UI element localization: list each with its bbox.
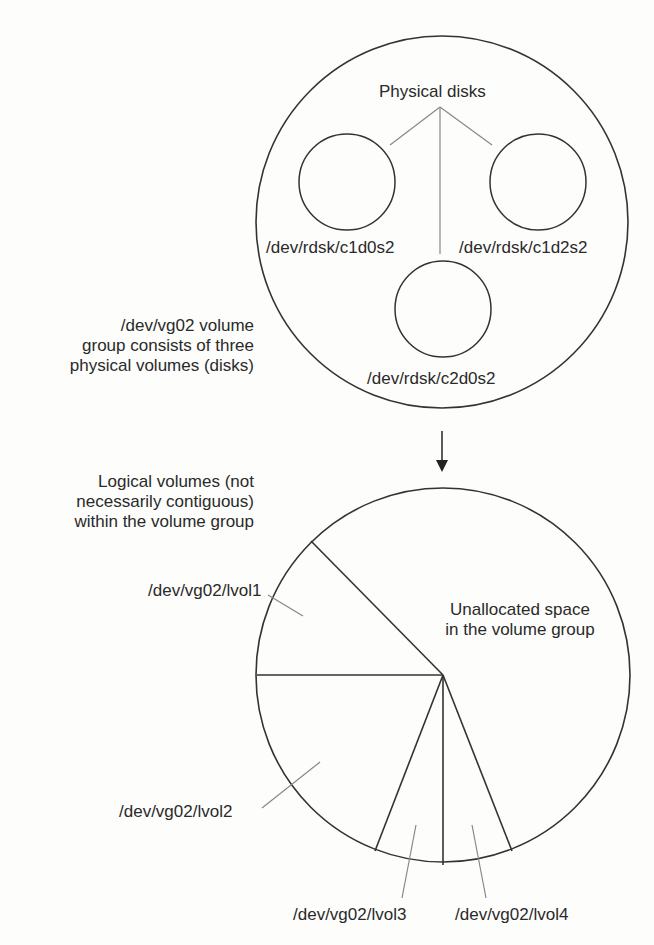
lv-description-line: within the volume group (0, 512, 254, 532)
disk-label-c2d0s2: /dev/rdsk/c2d0s2 (367, 369, 496, 389)
disk-c1d0s2-circle (299, 134, 395, 230)
physical-disks-leaders (390, 107, 492, 254)
lvol3-label: /dev/vg02/lvol3 (293, 905, 406, 925)
disk-c1d2s2-circle (490, 134, 586, 230)
lvol2-label: /dev/vg02/lvol2 (119, 802, 232, 822)
lv-description-line: necessarily contiguous) (0, 492, 254, 512)
vg-description-line: group consists of three (0, 336, 254, 356)
lvol1-label: /dev/vg02/lvol1 (148, 581, 261, 601)
unallocated-line: Unallocated space (420, 600, 620, 620)
volume-group-description: /dev/vg02 volume group consists of three… (0, 316, 254, 376)
disk-c2d0s2-circle (395, 261, 491, 357)
unallocated-space-label: Unallocated space in the volume group (420, 600, 620, 640)
pie-dividers (257, 541, 512, 865)
disk-label-c1d2s2: /dev/rdsk/c1d2s2 (459, 238, 588, 258)
vg-description-line: physical volumes (disks) (0, 356, 254, 376)
lv-description-line: Logical volumes (not (0, 472, 254, 492)
vg-description-line: /dev/vg02 volume (0, 316, 254, 336)
disk-label-c1d0s2: /dev/rdsk/c1d0s2 (266, 238, 395, 258)
logical-volumes-description: Logical volumes (not necessarily contigu… (0, 472, 254, 532)
physical-disks-label: Physical disks (379, 82, 486, 102)
lvol4-label: /dev/vg02/lvol4 (455, 905, 568, 925)
lvol-leaders (262, 595, 486, 898)
down-arrow-icon (436, 431, 448, 472)
unallocated-line: in the volume group (420, 620, 620, 640)
